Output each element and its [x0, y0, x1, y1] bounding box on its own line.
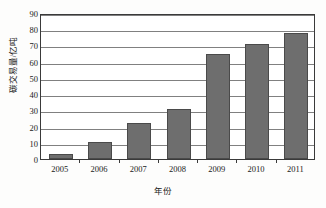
y-axis-tick-label: 90	[16, 10, 38, 18]
bar	[206, 54, 230, 159]
bar	[49, 154, 73, 159]
x-axis-tick-label: 2008	[158, 164, 197, 175]
x-axis-tick-mark	[236, 160, 237, 163]
plot-area	[40, 14, 315, 160]
y-axis-tick-label: 70	[16, 42, 38, 50]
y-axis-tick-label: 80	[16, 26, 38, 34]
bar	[127, 123, 151, 159]
x-axis-tick-label: 2010	[236, 164, 275, 175]
y-axis-tick-label: 40	[16, 91, 38, 99]
bar-series	[41, 15, 314, 159]
x-axis-tick-label: 2006	[79, 164, 118, 175]
y-axis-tick-label: 0	[16, 156, 38, 164]
y-axis-tick-label: 20	[16, 124, 38, 132]
y-axis-tick-labels: 0102030405060708090	[16, 14, 38, 160]
x-axis-tick-mark	[79, 160, 80, 163]
y-axis-tick-label: 10	[16, 140, 38, 148]
x-axis-tick-label: 2009	[197, 164, 236, 175]
x-axis-tick-mark	[158, 160, 159, 163]
y-axis-tick-label: 30	[16, 107, 38, 115]
y-axis-tick-label: 50	[16, 75, 38, 83]
y-axis-tick-label: 60	[16, 59, 38, 67]
bar	[284, 33, 308, 159]
x-axis-tick-label: 2005	[40, 164, 79, 175]
x-axis-tick-label: 2007	[119, 164, 158, 175]
bar-chart: 碳交易量/亿吨 0102030405060708090 200520062007…	[0, 0, 326, 208]
bar	[167, 109, 191, 159]
bar	[88, 142, 112, 159]
x-axis-tick-labels: 2005200620072008200920102011	[40, 164, 315, 178]
x-axis-tick-label: 2011	[276, 164, 315, 175]
bar	[245, 44, 269, 159]
x-axis-title: 年份	[0, 184, 326, 196]
x-axis-tick-mark	[197, 160, 198, 163]
x-axis-tick-mark	[119, 160, 120, 163]
x-axis-tick-mark	[276, 160, 277, 163]
